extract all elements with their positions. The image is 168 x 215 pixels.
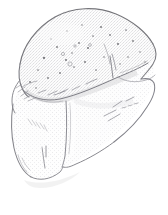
illustration-canvas: Hand-drawn grayscale sketch of a rectang… <box>0 0 168 215</box>
bread-loaf-drawing <box>0 0 168 215</box>
